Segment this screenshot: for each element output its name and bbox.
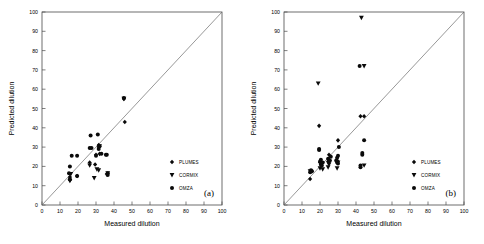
panel-letter: (b) bbox=[446, 188, 457, 198]
x-tick-label: 60 bbox=[147, 208, 153, 214]
series-cormix bbox=[68, 97, 127, 183]
chart-panel-a: 0010102020303040405050606070708080909010… bbox=[0, 0, 242, 244]
y-tick-label: 0 bbox=[35, 202, 38, 208]
down-triangle-marker bbox=[92, 176, 97, 180]
x-tick-label: 80 bbox=[183, 208, 189, 214]
circle-marker bbox=[329, 155, 333, 159]
circle-marker bbox=[106, 173, 110, 177]
legend-label-plumes: PLUMES bbox=[179, 160, 199, 165]
series-cormix bbox=[308, 16, 367, 174]
x-tick-label: 30 bbox=[335, 208, 341, 214]
down-triangle-marker bbox=[326, 165, 331, 169]
down-triangle-marker bbox=[170, 173, 175, 177]
y-tick-label: 30 bbox=[32, 144, 38, 150]
y-axis-title: Predicted dilution bbox=[8, 82, 15, 136]
legend-label-omza: OMZA bbox=[179, 186, 194, 191]
circle-marker bbox=[75, 154, 79, 158]
diamond-marker bbox=[308, 177, 312, 182]
diamond-marker bbox=[123, 120, 127, 125]
y-tick-label: 40 bbox=[32, 125, 38, 131]
y-tick-label: 20 bbox=[32, 163, 38, 169]
circle-marker bbox=[90, 146, 94, 150]
circle-marker bbox=[105, 153, 109, 157]
plot-area: 0010102020303040405050606070708080909010… bbox=[0, 0, 242, 244]
circle-marker bbox=[328, 159, 332, 163]
y-tick-label: 10 bbox=[274, 183, 280, 189]
x-axis-title: Measured dilution bbox=[104, 220, 159, 227]
down-triangle-marker bbox=[412, 173, 417, 177]
y-tick-label: 100 bbox=[29, 9, 38, 15]
diamond-marker bbox=[93, 162, 97, 167]
y-tick-label: 30 bbox=[274, 144, 280, 150]
legend: PLUMESCORMIXOMZA bbox=[170, 160, 199, 191]
circle-marker bbox=[317, 147, 321, 151]
y-tick-label: 70 bbox=[274, 67, 280, 73]
x-tick-label: 40 bbox=[111, 208, 117, 214]
down-triangle-marker bbox=[335, 166, 340, 170]
x-tick-label: 50 bbox=[371, 208, 377, 214]
x-tick-label: 10 bbox=[57, 208, 63, 214]
circle-marker bbox=[75, 174, 79, 178]
down-triangle-marker bbox=[362, 64, 367, 68]
x-tick-label: 50 bbox=[129, 208, 135, 214]
circle-marker bbox=[358, 64, 362, 68]
chart-panel-b: 0010102020303040405050606070708080909010… bbox=[242, 0, 484, 244]
x-tick-label: 70 bbox=[165, 208, 171, 214]
figure-root: 0010102020303040405050606070708080909010… bbox=[0, 0, 484, 244]
y-tick-label: 100 bbox=[271, 9, 280, 15]
x-tick-label: 10 bbox=[299, 208, 305, 214]
y-tick-label: 60 bbox=[274, 86, 280, 92]
circle-marker bbox=[321, 161, 325, 165]
legend-label-omza: OMZA bbox=[421, 186, 436, 191]
down-triangle-marker bbox=[316, 81, 321, 85]
plot-area: 0010102020303040405050606070708080909010… bbox=[242, 0, 484, 244]
x-tick-label: 20 bbox=[317, 208, 323, 214]
x-tick-label: 100 bbox=[460, 208, 469, 214]
x-tick-label: 20 bbox=[75, 208, 81, 214]
x-tick-label: 0 bbox=[283, 208, 286, 214]
down-triangle-marker bbox=[320, 167, 325, 171]
circle-marker bbox=[89, 134, 93, 138]
circle-marker bbox=[122, 96, 126, 100]
legend-label-plumes: PLUMES bbox=[421, 160, 441, 165]
circle-marker bbox=[170, 186, 174, 190]
x-tick-label: 60 bbox=[389, 208, 395, 214]
y-tick-label: 20 bbox=[274, 163, 280, 169]
circle-marker bbox=[68, 164, 72, 168]
x-tick-label: 90 bbox=[201, 208, 207, 214]
y-tick-label: 40 bbox=[274, 125, 280, 131]
diamond-marker bbox=[412, 160, 416, 165]
x-tick-label: 70 bbox=[407, 208, 413, 214]
legend: PLUMESCORMIXOMZA bbox=[412, 160, 441, 191]
diamond-marker bbox=[336, 138, 340, 143]
x-tick-label: 40 bbox=[353, 208, 359, 214]
legend-label-cormix: CORMIX bbox=[421, 173, 440, 178]
diamond-marker bbox=[170, 160, 174, 165]
series-omza bbox=[308, 64, 366, 174]
y-tick-label: 60 bbox=[32, 86, 38, 92]
circle-marker bbox=[359, 163, 363, 167]
circle-marker bbox=[96, 133, 100, 137]
circle-marker bbox=[94, 154, 98, 158]
circle-marker bbox=[310, 169, 314, 173]
circle-marker bbox=[336, 162, 340, 166]
circle-marker bbox=[412, 186, 416, 190]
y-tick-label: 80 bbox=[274, 48, 280, 54]
circle-marker bbox=[67, 171, 71, 175]
circle-marker bbox=[360, 151, 364, 155]
circle-marker bbox=[337, 145, 341, 149]
diamond-marker bbox=[358, 114, 362, 119]
x-axis-title: Measured dilution bbox=[346, 220, 401, 227]
y-tick-label: 50 bbox=[274, 106, 280, 112]
down-triangle-marker bbox=[359, 16, 364, 20]
circle-marker bbox=[68, 177, 72, 181]
y-tick-label: 0 bbox=[277, 202, 280, 208]
y-tick-label: 10 bbox=[32, 183, 38, 189]
y-tick-label: 80 bbox=[32, 48, 38, 54]
circle-marker bbox=[70, 154, 74, 158]
x-tick-label: 80 bbox=[425, 208, 431, 214]
x-tick-label: 30 bbox=[93, 208, 99, 214]
circle-marker bbox=[99, 152, 103, 156]
circle-marker bbox=[362, 138, 366, 142]
y-tick-label: 70 bbox=[32, 67, 38, 73]
